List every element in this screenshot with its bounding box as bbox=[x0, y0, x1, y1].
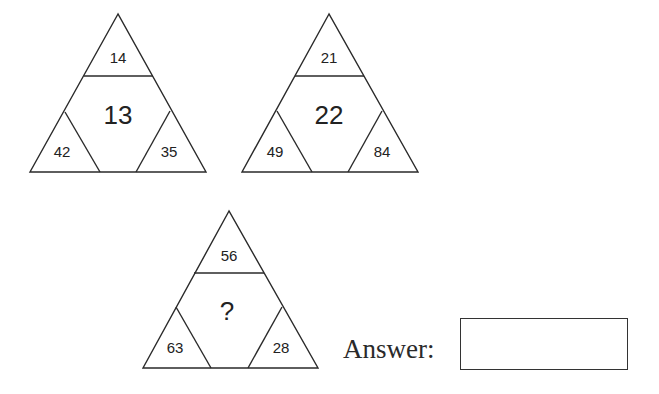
triangle-3-right: 28 bbox=[273, 339, 290, 356]
answer-input-box[interactable] bbox=[460, 318, 628, 370]
triangle-2: 21 22 49 84 bbox=[242, 14, 418, 172]
triangle-2-left: 49 bbox=[267, 143, 284, 160]
triangle-3-left: 63 bbox=[167, 339, 184, 356]
answer-label: Answer: bbox=[343, 334, 434, 365]
triangle-2-center: 22 bbox=[315, 100, 344, 130]
triangle-1-center: 13 bbox=[104, 100, 133, 130]
triangle-2-right: 84 bbox=[374, 143, 391, 160]
triangle-2-top: 21 bbox=[321, 49, 338, 66]
triangle-1: 14 13 42 35 bbox=[30, 14, 206, 172]
triangle-1-right: 35 bbox=[161, 143, 178, 160]
triangle-3-top: 56 bbox=[221, 247, 238, 264]
triangle-1-left: 42 bbox=[54, 143, 71, 160]
triangle-1-top: 14 bbox=[110, 49, 127, 66]
triangle-3-center: ? bbox=[220, 296, 234, 326]
triangle-3: 56 ? 63 28 bbox=[143, 211, 318, 368]
